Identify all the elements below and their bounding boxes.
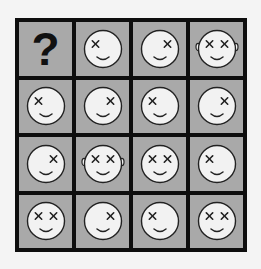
- smiley-face-icon: [81, 27, 125, 71]
- smiley-face-icon: [138, 84, 182, 128]
- smiley-face-icon: [24, 142, 68, 186]
- grid-cell-r1-c2: [76, 22, 129, 76]
- grid-cell-r2-c2: [76, 80, 129, 134]
- grid-cell-r2-c4: [190, 80, 243, 134]
- face-outline: [84, 203, 121, 240]
- smiley-face-icon: [81, 84, 125, 128]
- grid-cell-r4-c4: [190, 195, 243, 249]
- grid-cell-r3-c3: [133, 137, 186, 191]
- face-outline: [84, 30, 121, 67]
- grid-cell-r1-c4: [190, 22, 243, 76]
- smiley-face-icon: [195, 142, 239, 186]
- smiley-face-icon: [138, 27, 182, 71]
- smiley-face-icon: [81, 199, 125, 243]
- smiley-face-icon: [195, 84, 239, 128]
- smiley-face-icon: [138, 199, 182, 243]
- smiley-face-icon: [24, 199, 68, 243]
- grid-cell-r4-c1: [19, 195, 72, 249]
- grid-cell-r1-c1[interactable]: ?: [19, 22, 72, 76]
- smiley-face-icon: [81, 142, 125, 186]
- face-outline: [198, 30, 235, 67]
- smiley-face-icon: [138, 142, 182, 186]
- face-outline: [141, 145, 178, 182]
- grid-cell-r2-c3: [133, 80, 186, 134]
- face-outline: [198, 88, 235, 125]
- grid-cell-r3-c1: [19, 137, 72, 191]
- face-outline: [141, 88, 178, 125]
- grid-cell-r3-c2: [76, 137, 129, 191]
- question-mark-icon: ?: [31, 26, 59, 72]
- face-outline: [141, 30, 178, 67]
- face-outline: [27, 203, 64, 240]
- smiley-face-icon: [195, 199, 239, 243]
- face-outline: [84, 145, 121, 182]
- grid-cell-r4-c2: [76, 195, 129, 249]
- face-outline: [84, 88, 121, 125]
- grid-cell-r3-c4: [190, 137, 243, 191]
- face-outline: [198, 145, 235, 182]
- puzzle-grid: ?: [15, 18, 247, 252]
- grid-cell-r1-c3: [133, 22, 186, 76]
- face-outline: [198, 203, 235, 240]
- grid-cell-r4-c3: [133, 195, 186, 249]
- face-outline: [27, 145, 64, 182]
- face-outline: [141, 203, 178, 240]
- grid-cell-r2-c1: [19, 80, 72, 134]
- smiley-face-icon: [195, 27, 239, 71]
- face-outline: [27, 88, 64, 125]
- smiley-face-icon: [24, 84, 68, 128]
